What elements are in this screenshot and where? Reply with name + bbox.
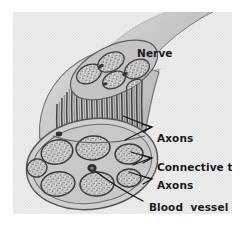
label-connective-tissue: Connective tissue bbox=[157, 162, 232, 173]
label-blood-vessel: Blood vessel bbox=[149, 202, 228, 213]
nerve-illustration bbox=[13, 12, 232, 214]
label-nerve: Nerve bbox=[137, 48, 173, 59]
illustration-panel: Nerve Axons Connective tissue Axons Bloo… bbox=[13, 12, 232, 214]
label-axons-lower: Axons bbox=[157, 180, 193, 191]
label-axons-upper: Axons bbox=[157, 133, 193, 144]
figure-screen: Nerve Axons Connective tissue Axons Bloo… bbox=[0, 0, 240, 227]
connective-node bbox=[56, 132, 62, 137]
